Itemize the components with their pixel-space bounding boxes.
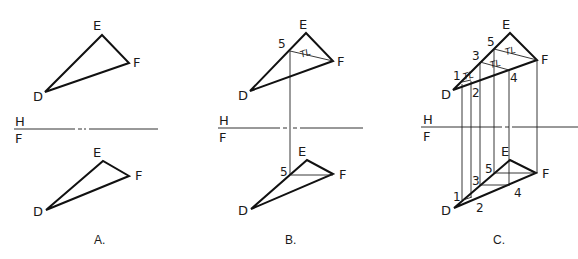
label-e-front: E: [298, 144, 306, 159]
label-4-front: 4: [514, 186, 522, 200]
triangle-def-top-view: [45, 35, 129, 92]
label-e-top: E: [502, 17, 510, 32]
fold-label-h: H: [15, 114, 25, 129]
label-e-front: E: [501, 144, 509, 159]
triangle-def-front-view: [454, 160, 536, 208]
tl-mark-2: TL: [489, 58, 502, 70]
label-5-top: 5: [278, 37, 286, 51]
label-d-top: D: [441, 87, 451, 102]
label-e-top: E: [299, 17, 307, 32]
fold-label-f: F: [423, 129, 430, 144]
panel-c: H F E F D 5 3 1 2 4 TL TL TL E F: [421, 17, 578, 247]
label-f-top: F: [541, 52, 548, 67]
fold-label-f: F: [15, 131, 22, 146]
label-f-front: F: [339, 167, 346, 182]
label-3-front: 3: [472, 174, 480, 188]
label-2-top: 2: [472, 86, 480, 100]
label-f-front: F: [135, 168, 142, 183]
caption-c: C.: [493, 233, 505, 247]
label-d-front: D: [441, 203, 451, 218]
label-f-top: F: [337, 54, 344, 69]
triangle-def-top-view: [250, 33, 333, 91]
caption-a: A.: [94, 233, 105, 247]
label-4-top: 4: [510, 71, 518, 85]
label-2-front: 2: [476, 201, 484, 215]
label-5-top: 5: [487, 35, 495, 49]
fold-label-h: H: [423, 112, 433, 127]
caption-b: B.: [285, 233, 296, 247]
panel-a: H F E F D E F D A.: [14, 18, 158, 247]
label-f-front: F: [542, 166, 549, 181]
label-d-top: D: [33, 89, 43, 104]
panel-b: H F E F D 5 TL E F D 5 B.: [218, 17, 363, 247]
label-5-front: 5: [280, 165, 288, 179]
fold-label-h: H: [219, 113, 229, 128]
descriptive-geometry-diagram: H F E F D E F D A. H F E F D 5 TL: [0, 0, 578, 259]
fold-label-f: F: [219, 130, 226, 145]
label-e-front: E: [93, 145, 101, 160]
label-3-top: 3: [472, 49, 480, 63]
label-1-front: 1: [453, 190, 461, 204]
label-d-front: D: [238, 203, 248, 218]
label-d-top: D: [238, 88, 248, 103]
tl-mark: TL: [299, 47, 312, 60]
label-f-top: F: [133, 55, 140, 70]
label-5-front: 5: [485, 162, 493, 176]
triangle-def-front-view: [46, 161, 129, 210]
triangle-def-front-view: [251, 160, 333, 209]
tl-mark-1: TL: [504, 45, 517, 57]
label-d-front: D: [33, 204, 43, 219]
label-e-top: E: [93, 18, 101, 33]
label-1-top: 1: [453, 69, 461, 83]
